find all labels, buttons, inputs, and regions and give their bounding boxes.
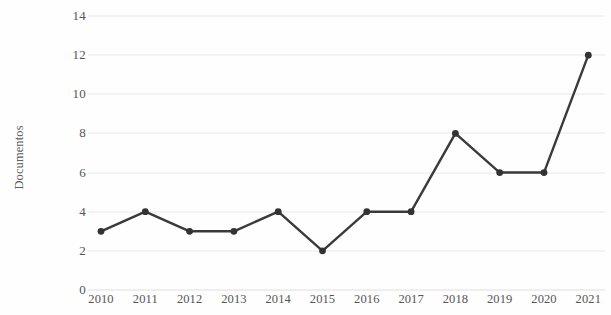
data-point-marker <box>452 130 459 137</box>
data-point-marker <box>408 208 415 215</box>
y-tick-label: 4 <box>42 204 86 220</box>
x-tick-label: 2014 <box>255 292 301 307</box>
series-polyline <box>101 55 588 251</box>
data-point-marker <box>275 208 282 215</box>
x-tick-label: 2015 <box>300 292 346 307</box>
y-axis-tick-labels: 02468101214 <box>12 0 86 315</box>
x-tick-label: 2017 <box>388 292 434 307</box>
data-point-marker <box>142 208 149 215</box>
y-tick-label: 10 <box>42 86 86 102</box>
x-tick-label: 2016 <box>344 292 390 307</box>
x-tick-label: 2021 <box>565 292 611 307</box>
series-line-documentos <box>88 0 607 315</box>
y-tick-label: 12 <box>42 47 86 63</box>
data-point-marker <box>231 228 238 235</box>
data-point-marker <box>363 208 370 215</box>
x-tick-label: 2019 <box>477 292 523 307</box>
x-axis-tick-labels: 2010201120122013201420152016201720182019… <box>88 292 607 315</box>
x-tick-label: 2020 <box>521 292 567 307</box>
plot-area <box>88 0 607 315</box>
y-tick-label: 8 <box>42 125 86 141</box>
data-point-marker <box>585 52 592 59</box>
x-tick-label: 2011 <box>122 292 168 307</box>
x-tick-label: 2018 <box>432 292 478 307</box>
data-point-marker <box>98 228 105 235</box>
data-point-marker <box>319 247 326 254</box>
y-tick-label: 14 <box>42 8 86 24</box>
data-point-marker <box>496 169 503 176</box>
x-tick-label: 2012 <box>167 292 213 307</box>
data-point-marker <box>186 228 193 235</box>
y-tick-label: 6 <box>42 165 86 181</box>
data-point-marker <box>541 169 548 176</box>
x-tick-label: 2013 <box>211 292 257 307</box>
line-chart: Documentos 02468101214 20102011201220132… <box>0 0 611 315</box>
y-tick-label: 2 <box>42 243 86 259</box>
x-tick-label: 2010 <box>78 292 124 307</box>
